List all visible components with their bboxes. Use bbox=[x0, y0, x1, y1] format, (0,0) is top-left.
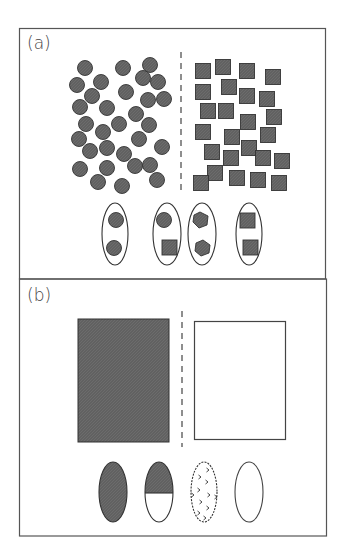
square-particle bbox=[194, 176, 209, 191]
circle-particle bbox=[78, 61, 93, 76]
square-particle bbox=[256, 151, 271, 166]
pair-circle-square bbox=[153, 203, 181, 265]
oval-fully-filled bbox=[99, 462, 127, 522]
square-particle bbox=[275, 154, 290, 169]
square-particle bbox=[242, 141, 257, 156]
circle-particle bbox=[115, 179, 130, 194]
circle-particle bbox=[72, 132, 87, 147]
oval-empty bbox=[235, 462, 263, 522]
square-particle bbox=[222, 80, 237, 95]
circle-particle bbox=[155, 140, 170, 155]
circle-particle bbox=[143, 158, 158, 173]
circle-particle bbox=[117, 147, 132, 162]
square-particle bbox=[225, 130, 240, 145]
circle-particle bbox=[91, 175, 106, 190]
circle-particle bbox=[116, 61, 131, 76]
circle-particle bbox=[112, 117, 127, 132]
circle-particle bbox=[100, 101, 115, 116]
square-particle bbox=[196, 85, 211, 100]
circle-particle bbox=[100, 141, 115, 156]
pair-hexagon-hexagon bbox=[188, 203, 216, 265]
square-particle bbox=[201, 104, 216, 119]
square-cluster bbox=[194, 60, 290, 191]
square-particle bbox=[251, 173, 266, 188]
pair-square-square bbox=[236, 203, 262, 265]
circle-particle bbox=[94, 75, 109, 90]
oval-dotted bbox=[191, 462, 217, 522]
circle-particle bbox=[119, 85, 134, 100]
circle-particle bbox=[132, 132, 147, 147]
square-particle bbox=[240, 89, 255, 104]
circle-particle bbox=[73, 162, 88, 177]
square-particle bbox=[196, 64, 211, 79]
square-particle bbox=[272, 176, 287, 191]
circle-particle bbox=[141, 93, 156, 108]
figure-canvas bbox=[0, 0, 339, 557]
circle-particle bbox=[128, 159, 143, 174]
circle-particle bbox=[79, 117, 94, 132]
circle-particle bbox=[157, 92, 172, 107]
square-particle bbox=[230, 171, 245, 186]
circle-particle bbox=[100, 161, 115, 176]
square-particle bbox=[267, 110, 282, 125]
square-particle bbox=[205, 145, 220, 160]
panel-a-label: (a) bbox=[27, 33, 51, 53]
circle-particle bbox=[70, 78, 85, 93]
square-particle bbox=[219, 104, 234, 119]
square-particle bbox=[260, 92, 275, 107]
panel-b-label: (b) bbox=[27, 285, 51, 305]
circle-particle bbox=[85, 89, 100, 104]
circle-particle bbox=[96, 125, 111, 140]
circle-particle bbox=[136, 71, 151, 86]
square-particle bbox=[261, 128, 276, 143]
square-particle bbox=[224, 151, 239, 166]
circle-particle bbox=[129, 107, 144, 122]
circle-particle bbox=[83, 144, 98, 159]
circle-particle bbox=[142, 118, 157, 133]
square-particle bbox=[216, 60, 231, 75]
square-particle bbox=[266, 70, 281, 85]
circle-particle bbox=[73, 100, 88, 115]
circle-particle bbox=[150, 173, 165, 188]
circle-particle bbox=[151, 75, 166, 90]
square-particle bbox=[241, 115, 256, 130]
oval-half-filled bbox=[145, 462, 173, 522]
square-particle bbox=[208, 166, 223, 181]
pair-circle-circle bbox=[102, 203, 128, 265]
filled-block bbox=[78, 319, 169, 442]
empty-block bbox=[195, 322, 286, 440]
square-particle bbox=[240, 64, 255, 79]
square-particle bbox=[196, 125, 211, 140]
circle-cluster bbox=[70, 58, 172, 194]
